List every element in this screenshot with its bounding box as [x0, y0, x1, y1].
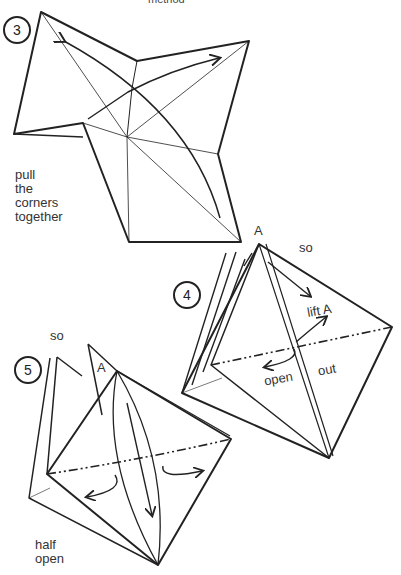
step-5-badge: 5 — [14, 356, 42, 384]
step-3-badge: 3 — [3, 16, 31, 44]
step-3-caption: pull the corners together — [15, 168, 63, 224]
step-4-label-so: so — [299, 241, 313, 255]
step-4-label-a: A — [254, 224, 263, 238]
step-4-badge: 4 — [173, 281, 201, 309]
step-5-label-so: so — [50, 329, 64, 343]
step5-figure — [29, 344, 231, 565]
step-5-caption: half open — [35, 538, 64, 566]
step-5-label-a: A — [97, 361, 106, 375]
origami-diagram — [0, 0, 401, 575]
